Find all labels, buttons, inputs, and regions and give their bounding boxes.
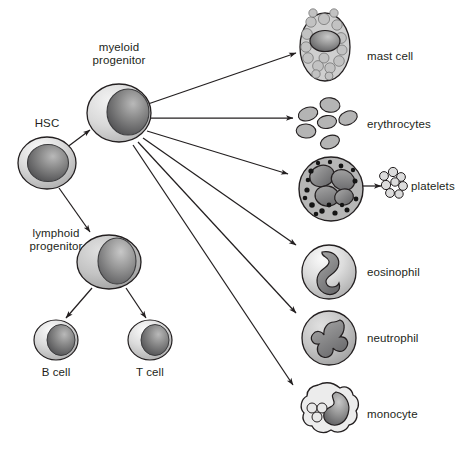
cell-mast-cell bbox=[300, 9, 350, 81]
label-myeloid-progenitor-line2: progenitor bbox=[93, 54, 146, 67]
cell-megakaryocyte bbox=[299, 157, 363, 221]
label-hsc: HSC bbox=[35, 117, 60, 130]
label-neutrophil: neutrophil bbox=[367, 332, 419, 345]
cell-hsc bbox=[18, 137, 76, 189]
arrow-hsc-to-lymphoid-progenitor bbox=[59, 188, 90, 232]
cell-lymphoid-progenitor bbox=[77, 235, 141, 289]
arrow-lymphoid-progenitor-to-b-cell bbox=[66, 288, 92, 318]
label-monocyte: monocyte bbox=[367, 408, 418, 421]
arrow-hsc-to-myeloid-progenitor bbox=[66, 130, 90, 148]
arrow-myeloid-progenitor-to-eosinophil bbox=[143, 138, 296, 245]
label-myeloid-progenitor-line1: myeloid bbox=[99, 41, 139, 54]
cell-erythrocytes bbox=[296, 96, 360, 151]
arrow-lymphoid-progenitor-to-t-cell bbox=[126, 288, 146, 318]
hematopoiesis-diagram: HSC myeloid progenitor lymphoid progenit… bbox=[0, 0, 463, 462]
cell-eosinophil bbox=[302, 245, 356, 299]
label-lymphoid-progenitor-line1: lymphoid bbox=[33, 227, 80, 240]
label-mast-cell: mast cell bbox=[367, 50, 413, 63]
label-t-cell: T cell bbox=[136, 366, 164, 379]
cell-myeloid-progenitor bbox=[87, 84, 151, 142]
arrow-myeloid-progenitor-to-mast-cell bbox=[148, 53, 296, 104]
label-lymphoid-progenitor-line2: progenitor bbox=[30, 240, 83, 253]
label-eosinophil: eosinophil bbox=[367, 266, 420, 279]
label-erythrocytes: erythrocytes bbox=[367, 118, 431, 131]
arrow-myeloid-progenitor-to-neutrophil bbox=[138, 142, 296, 313]
cell-t-cell bbox=[128, 320, 172, 360]
cell-monocyte bbox=[301, 383, 358, 433]
cell-platelets bbox=[380, 167, 408, 198]
cell-b-cell bbox=[34, 320, 78, 360]
arrow-myeloid-progenitor-to-megakaryocyte bbox=[147, 131, 288, 174]
cell-neutrophil bbox=[302, 311, 356, 365]
label-b-cell: B cell bbox=[42, 366, 71, 379]
label-platelets: platelets bbox=[411, 180, 455, 193]
